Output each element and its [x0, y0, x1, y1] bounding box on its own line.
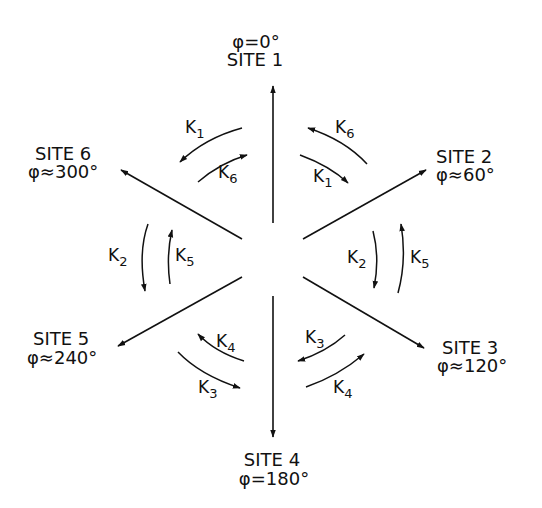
rate-label-k1-top-left: K1: [185, 117, 204, 141]
arc-k2-left: [142, 224, 148, 291]
site-4-label: SITE 4: [244, 449, 300, 470]
site-2-angle: φ≈60°: [436, 164, 495, 185]
site-6-angle: φ≈300°: [28, 161, 98, 182]
site-5-label: SITE 5: [33, 328, 89, 349]
rate-label-k6-top-right: K6: [335, 117, 354, 141]
site-3-angle: φ≈120°: [437, 355, 507, 376]
site-diagram: φ=0° SITE 1 SITE 2 φ≈60° SITE 3 φ≈120° S…: [0, 0, 542, 508]
rate-label-k4-bottom-left: K4: [216, 331, 235, 355]
site-4-angle: φ=180°: [239, 468, 309, 489]
rate-label-k2-left: K2: [108, 245, 127, 269]
site-1-label: SITE 1: [227, 49, 283, 70]
arc-k2-right: [373, 231, 377, 288]
rate-label-k3-bottom-right: K3: [305, 327, 324, 351]
site-5-angle: φ≈240°: [27, 347, 97, 368]
rate-label-k4-bottom-right: K4: [333, 377, 352, 401]
rate-label-k6-top-left: K6: [218, 162, 237, 186]
rate-label-k2-right: K2: [347, 247, 366, 271]
rate-label-k5-right: K5: [410, 247, 429, 271]
rate-label-k3-bottom-left: K3: [198, 377, 217, 401]
arc-k5-right: [398, 224, 403, 293]
rate-label-k5-left: K5: [175, 245, 194, 269]
arc-k5-left: [168, 230, 172, 284]
